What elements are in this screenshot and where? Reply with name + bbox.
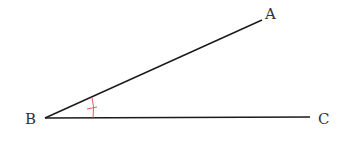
ray-bc [45, 117, 310, 118]
label-b: B [25, 110, 36, 128]
label-c: C [318, 110, 329, 128]
angle-tick-mark [87, 107, 97, 109]
ray-ba [45, 20, 262, 118]
label-a: A [264, 5, 276, 23]
angle-diagram: A B C [0, 0, 351, 150]
